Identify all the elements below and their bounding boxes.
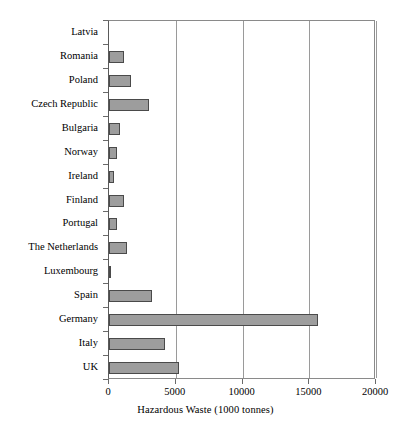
bar-spain xyxy=(109,290,152,302)
y-axis-label: Poland xyxy=(0,74,98,85)
bar-italy xyxy=(109,338,165,350)
bar-row xyxy=(109,21,374,45)
y-axis-tick xyxy=(103,92,108,93)
bar-row xyxy=(109,332,374,356)
bar-luxembourg xyxy=(109,266,111,278)
bar-row xyxy=(109,212,374,236)
y-axis-label: Portugal xyxy=(0,217,98,228)
bar-romania xyxy=(109,51,124,63)
y-axis-tick xyxy=(103,259,108,260)
bar-row xyxy=(109,69,374,93)
y-axis-tick xyxy=(103,20,108,21)
x-axis-tick-label: 20000 xyxy=(345,386,405,398)
y-axis-label: Finland xyxy=(0,194,98,205)
bar-row xyxy=(109,236,374,260)
y-axis-label: Latvia xyxy=(0,26,98,37)
y-axis-tick xyxy=(103,307,108,308)
x-axis-tick-15000 xyxy=(308,379,309,384)
x-axis-tick-label: 5000 xyxy=(145,386,205,398)
y-axis-label: The Netherlands xyxy=(0,241,98,252)
bar-ireland xyxy=(109,171,114,183)
bar-row xyxy=(109,93,374,117)
y-axis-tick xyxy=(103,283,108,284)
y-axis-tick xyxy=(103,44,108,45)
hazardous-waste-bar-chart: LatviaRomaniaPolandCzech RepublicBulgari… xyxy=(0,0,411,429)
x-axis-tick-label: 15000 xyxy=(278,386,338,398)
y-axis-label: Bulgaria xyxy=(0,122,98,133)
bar-row xyxy=(109,117,374,141)
y-axis-label: Spain xyxy=(0,289,98,300)
y-axis-tick xyxy=(103,235,108,236)
y-axis-tick xyxy=(103,116,108,117)
y-axis-label: UK xyxy=(0,361,98,372)
y-axis-tick xyxy=(103,355,108,356)
x-axis-tick-5000 xyxy=(175,379,176,384)
bar-portugal xyxy=(109,218,117,230)
y-axis-tick xyxy=(103,164,108,165)
bar-row xyxy=(109,141,374,165)
y-axis-label: Germany xyxy=(0,313,98,324)
bar-row xyxy=(109,260,374,284)
bar-bulgaria xyxy=(109,123,120,135)
bar-czech-republic xyxy=(109,99,149,111)
y-axis-label: Norway xyxy=(0,146,98,157)
bar-row xyxy=(109,308,374,332)
plot-area xyxy=(108,20,375,379)
y-axis-tick xyxy=(103,331,108,332)
y-axis-tick xyxy=(103,140,108,141)
gridline-20000 xyxy=(376,21,377,378)
bar-finland xyxy=(109,195,124,207)
y-axis-tick xyxy=(103,68,108,69)
bar-row xyxy=(109,356,374,380)
bar-uk xyxy=(109,362,179,374)
bar-row xyxy=(109,189,374,213)
bar-row xyxy=(109,165,374,189)
y-axis-label: Czech Republic xyxy=(0,98,98,109)
bar-row xyxy=(109,284,374,308)
y-axis-tick xyxy=(103,211,108,212)
bar-poland xyxy=(109,75,131,87)
y-axis-label: Ireland xyxy=(0,170,98,181)
y-axis-category-labels: LatviaRomaniaPolandCzech RepublicBulgari… xyxy=(0,20,103,379)
y-axis-label: Luxembourg xyxy=(0,265,98,276)
y-axis-label: Italy xyxy=(0,337,98,348)
x-axis-tick-20000 xyxy=(375,379,376,384)
y-axis-label: Romania xyxy=(0,50,98,61)
bar-the-netherlands xyxy=(109,242,127,254)
bar-row xyxy=(109,45,374,69)
bar-norway xyxy=(109,147,117,159)
x-axis-title: Hazardous Waste (1000 tonnes) xyxy=(0,404,411,415)
x-axis-tick-10000 xyxy=(242,379,243,384)
bar-germany xyxy=(109,314,318,326)
y-axis-tick xyxy=(103,188,108,189)
x-axis-tick-label: 10000 xyxy=(212,386,272,398)
x-axis-tick-0 xyxy=(108,379,109,384)
x-axis-tick-label: 0 xyxy=(78,386,138,398)
